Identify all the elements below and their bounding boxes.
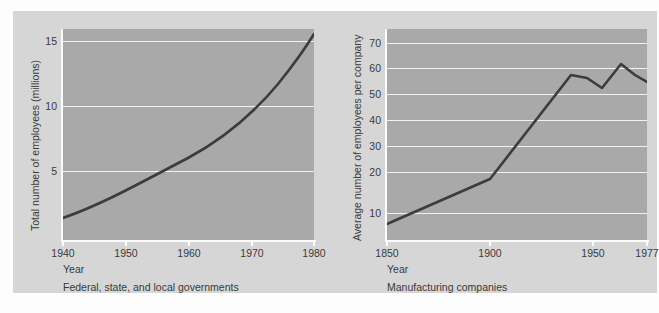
x-tick-label-1940: 1940 bbox=[51, 247, 74, 259]
x-tick-1850 bbox=[386, 240, 388, 246]
x-tick-label-1970: 1970 bbox=[240, 247, 263, 259]
x-axis-title-left: Year bbox=[63, 263, 84, 275]
x-tick-label-1980: 1980 bbox=[302, 247, 325, 259]
series-line-left bbox=[63, 29, 314, 240]
y-axis-title-right: Average number of employees per company bbox=[351, 35, 363, 241]
x-tick-label-1900: 1900 bbox=[478, 247, 501, 259]
x-tick-label-1850: 1850 bbox=[375, 247, 398, 259]
x-tick-label-1950: 1950 bbox=[114, 247, 137, 259]
series-line-right bbox=[387, 29, 647, 240]
figure-panel: 15 10 5 1940 1950 1960 1970 1980 Total n… bbox=[13, 11, 657, 293]
x-tick-1950 bbox=[592, 240, 594, 246]
x-axis-title-right: Year bbox=[387, 263, 408, 275]
caption-left: Federal, state, and local governments bbox=[63, 281, 239, 293]
y-axis-right bbox=[385, 29, 387, 242]
y-axis-title-left: Total number of employees (millions) bbox=[29, 60, 41, 231]
x-tick-1960 bbox=[188, 240, 190, 246]
x-tick-1977 bbox=[646, 240, 648, 246]
chart-left: 15 10 5 1940 1950 1960 1970 1980 Total n… bbox=[13, 11, 335, 293]
plot-area-right bbox=[387, 29, 647, 240]
x-tick-1950 bbox=[125, 240, 127, 246]
chart-right: 70 60 50 40 30 20 10 1850 1900 1950 1977… bbox=[335, 11, 657, 293]
x-axis-right bbox=[385, 240, 649, 242]
x-tick-label-1977: 1977 bbox=[635, 247, 658, 259]
plot-area-left bbox=[63, 29, 314, 240]
y-axis-left bbox=[61, 29, 63, 242]
x-tick-label-1950: 1950 bbox=[581, 247, 604, 259]
y-tick-label-15: 15 bbox=[37, 35, 57, 47]
x-tick-1900 bbox=[489, 240, 491, 246]
x-tick-1970 bbox=[251, 240, 253, 246]
x-tick-1940 bbox=[62, 240, 64, 246]
x-tick-label-1960: 1960 bbox=[177, 247, 200, 259]
caption-right: Manufacturing companies bbox=[387, 281, 507, 293]
x-tick-1980 bbox=[313, 240, 315, 246]
